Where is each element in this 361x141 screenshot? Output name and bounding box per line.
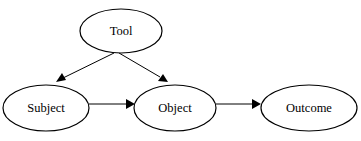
arrowhead-icon (56, 73, 66, 82)
edge-tool-object (119, 53, 168, 82)
node-label-object: Object (158, 101, 192, 115)
node-subject: Subject (3, 85, 89, 131)
node-object: Object (134, 85, 216, 131)
edge-subject-object (89, 99, 135, 109)
node-outcome: Outcome (261, 85, 357, 131)
node-label-subject: Subject (27, 101, 65, 115)
edge-tool-subject (56, 53, 114, 82)
edge-object-outcome (216, 99, 261, 109)
arrowhead-icon (252, 99, 261, 109)
activity-diagram: Tool Subject Object Outcome (0, 0, 361, 141)
arrowhead-icon (158, 74, 168, 82)
node-label-tool: Tool (110, 24, 133, 38)
node-tool: Tool (80, 9, 162, 53)
node-label-outcome: Outcome (286, 101, 332, 115)
